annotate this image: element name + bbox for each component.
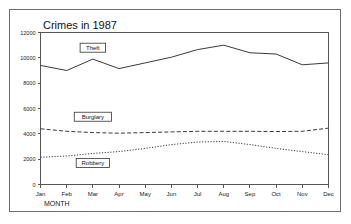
x-tick-label: Nov <box>297 191 308 197</box>
y-tick-label: 10000 <box>20 55 35 61</box>
legend-label-burglary: Burglary <box>82 114 104 120</box>
x-axis-ticks: JanFebMarAprMayJunJulAugSepOctNovDec <box>36 185 334 197</box>
x-tick-label: Mar <box>88 191 98 197</box>
y-tick-label: 12000 <box>20 30 35 36</box>
chart-title: Crimes in 1987 <box>43 19 117 31</box>
series-legend-labels: TheftBurglaryRobbery <box>74 43 111 167</box>
y-axis-ticks: 020004000600080001000012000 <box>20 30 40 188</box>
series-line-burglary <box>41 128 329 133</box>
legend-label-theft: Theft <box>86 45 100 51</box>
scan-artifact <box>8 0 158 5</box>
y-tick-label: 4000 <box>23 131 35 137</box>
x-tick-label: Sep <box>245 191 256 197</box>
series-line-robbery <box>41 141 329 157</box>
x-tick-label: Jan <box>36 191 46 197</box>
y-tick-label: 8000 <box>23 80 35 86</box>
y-tick-label: 6000 <box>23 106 35 112</box>
x-tick-label: Dec <box>323 191 334 197</box>
y-tick-label: 0 <box>32 182 35 188</box>
x-tick-label: Aug <box>218 191 229 197</box>
x-tick-label: Feb <box>62 191 73 197</box>
x-tick-label: May <box>140 191 151 197</box>
y-tick-label: 2000 <box>23 156 35 162</box>
crimes-line-chart: Crimes in 1987 0200040006000800010000120… <box>10 10 340 211</box>
x-axis-title: MONTH <box>44 200 70 207</box>
series-lines <box>41 45 329 157</box>
chart-frame: Crimes in 1987 0200040006000800010000120… <box>9 9 341 212</box>
x-tick-label: Jul <box>194 191 202 197</box>
x-tick-label: Oct <box>271 191 281 197</box>
legend-label-robbery: Robbery <box>82 160 105 166</box>
x-tick-label: Apr <box>114 191 123 197</box>
x-tick-label: Jun <box>167 191 177 197</box>
